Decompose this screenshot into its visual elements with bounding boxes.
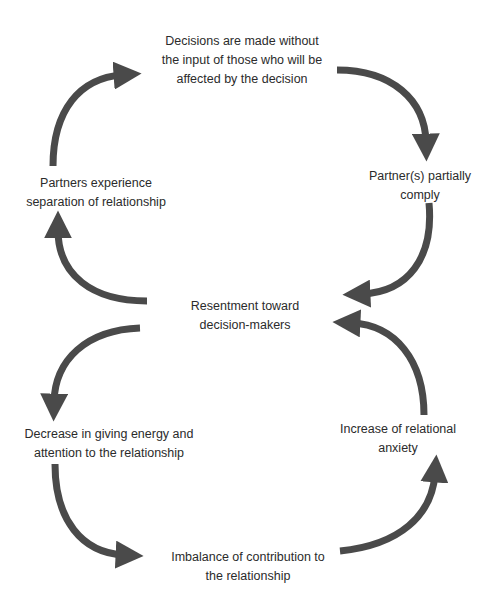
node-anxiety: Increase of relational anxiety — [340, 420, 456, 458]
node-decrease-energy-line-1: Decrease in giving energy and — [25, 425, 194, 444]
node-partial-comply-line-1: Partner(s) partially — [369, 167, 471, 186]
arrow-resentment-to-separation — [58, 230, 147, 301]
node-resentment: Resentment toward decision-makers — [191, 297, 299, 335]
node-decisions: Decisions are made without the input of … — [162, 32, 323, 89]
node-decisions-line-3: affected by the decision — [162, 70, 323, 89]
node-anxiety-line-1: Increase of relational — [340, 420, 456, 439]
node-decisions-line-2: the input of those who will be — [162, 51, 323, 70]
arrow-imbalance-to-anxiety — [340, 474, 435, 551]
node-resentment-line-2: decision-makers — [191, 316, 299, 335]
arrow-decrease-energy-to-imbalance — [55, 464, 124, 555]
arrow-separation-to-decisions — [53, 75, 122, 166]
node-decisions-line-1: Decisions are made without — [162, 32, 323, 51]
node-decrease-energy-line-2: attention to the relationship — [25, 444, 194, 463]
node-anxiety-line-2: anxiety — [340, 439, 456, 458]
node-resentment-line-1: Resentment toward — [191, 297, 299, 316]
node-separation: Partners experience separation of relati… — [26, 174, 166, 212]
node-decrease-energy: Decrease in giving energy and attention … — [25, 425, 194, 463]
arrow-anxiety-to-resentment — [352, 323, 424, 415]
arrow-decisions-to-partial-comply — [337, 70, 426, 142]
node-imbalance-line-2: the relationship — [171, 567, 325, 586]
node-imbalance: Imbalance of contribution to the relatio… — [171, 548, 325, 586]
node-partial-comply-line-2: comply — [369, 186, 471, 205]
cycle-diagram: Decisions are made without the input of … — [0, 0, 484, 605]
arrow-resentment-to-decrease-energy — [54, 328, 140, 402]
node-imbalance-line-1: Imbalance of contribution to — [171, 548, 325, 567]
arrow-partial-comply-to-resentment — [362, 203, 430, 294]
node-separation-line-1: Partners experience — [26, 174, 166, 193]
node-separation-line-2: separation of relationship — [26, 193, 166, 212]
node-partial-comply: Partner(s) partially comply — [369, 167, 471, 205]
